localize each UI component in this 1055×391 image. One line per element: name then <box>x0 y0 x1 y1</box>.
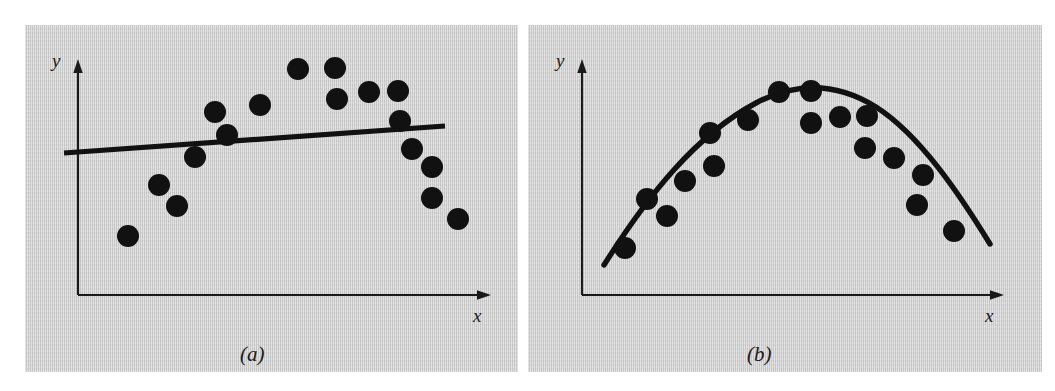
data-point <box>401 138 423 160</box>
data-point <box>326 88 348 110</box>
data-point <box>249 94 271 116</box>
data-point <box>856 105 878 127</box>
panel-b: y x (b) <box>528 25 1042 372</box>
data-point <box>184 146 206 168</box>
data-point <box>854 137 876 159</box>
data-point <box>883 147 905 169</box>
plot-b-graphic <box>528 25 1042 372</box>
data-point <box>943 220 965 242</box>
scatter-points-a <box>117 57 469 247</box>
data-point <box>614 237 636 259</box>
x-axis-label: x <box>473 306 481 325</box>
data-point <box>447 208 469 230</box>
y-axis-label: y <box>556 51 564 70</box>
data-point <box>421 187 443 209</box>
data-point <box>656 205 678 227</box>
data-point <box>287 58 309 80</box>
data-point <box>117 225 139 247</box>
data-point <box>674 170 696 192</box>
scatter-points-b <box>614 80 965 259</box>
x-axis-label: x <box>985 306 993 325</box>
data-point <box>166 195 188 217</box>
data-point <box>387 80 409 102</box>
y-axis-label: y <box>52 51 60 70</box>
data-point <box>829 106 851 128</box>
data-point <box>421 156 443 178</box>
data-point <box>703 155 725 177</box>
data-point <box>389 110 411 132</box>
panel-a: y x (a) <box>25 25 518 372</box>
data-point <box>906 194 928 216</box>
data-point <box>204 101 226 123</box>
fit-line-a <box>64 126 445 153</box>
data-point <box>358 81 380 103</box>
panel-caption-b: (b) <box>747 344 772 365</box>
data-point <box>216 124 238 146</box>
data-point <box>800 80 822 102</box>
data-point <box>699 122 721 144</box>
plot-a-graphic <box>25 25 518 372</box>
axis-b <box>577 59 1004 300</box>
data-point <box>912 164 934 186</box>
axis-a <box>73 59 491 300</box>
data-point <box>324 57 346 79</box>
panel-caption-a: (a) <box>240 344 265 365</box>
data-point <box>636 188 658 210</box>
figure-canvas: y x (a) <box>0 0 1055 391</box>
data-point <box>148 174 170 196</box>
data-point <box>768 81 790 103</box>
data-point <box>737 109 759 131</box>
data-point <box>800 112 822 134</box>
